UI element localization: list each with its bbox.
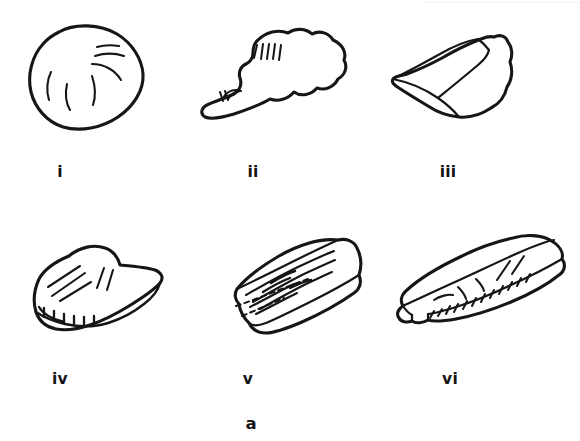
artefact-ii-label: ii	[247, 163, 258, 181]
artefact-iv-drawing	[22, 238, 182, 348]
artefact-ii-drawing	[196, 20, 356, 135]
artefact-i-label: i	[57, 163, 63, 181]
figure-panel: i ii iii iv	[0, 0, 580, 441]
artefact-i-drawing	[18, 14, 158, 144]
artefact-vi-drawing	[392, 228, 572, 343]
artefact-iv-label: iv	[52, 370, 68, 388]
artefact-v-drawing	[222, 232, 372, 347]
faint-top-rule	[425, 2, 580, 3]
panel-label-a: a	[245, 414, 256, 433]
artefact-iii-drawing	[382, 22, 522, 137]
artefact-v-label: v	[243, 370, 253, 388]
artefact-vi-label: vi	[442, 370, 458, 388]
artefact-iii-label: iii	[440, 163, 457, 181]
